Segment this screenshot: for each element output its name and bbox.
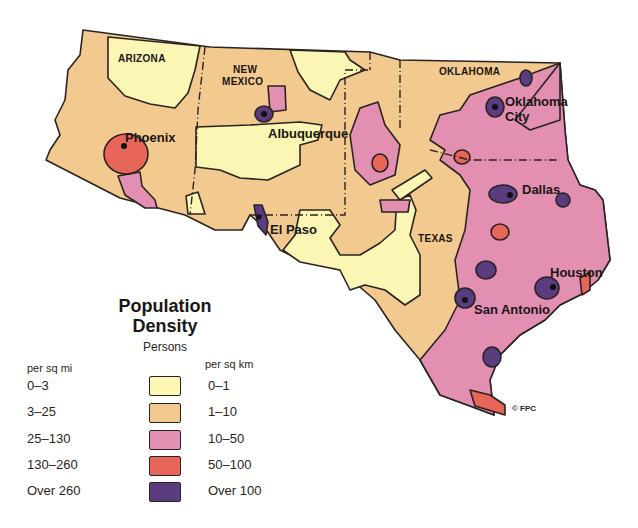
city-label-houston: Houston — [550, 265, 603, 280]
legend-km-4: Over 100 — [208, 483, 261, 498]
legend-km-0: 0–1 — [208, 378, 230, 393]
legend-title-line2: Density — [95, 316, 235, 336]
city-label-dallas: Dallas — [522, 182, 560, 197]
legend-column-header-mi: per sq mi — [27, 362, 72, 374]
legend-mi-4: Over 260 — [27, 483, 80, 498]
population-density-map — [0, 0, 638, 528]
city-label-el-paso: El Paso — [270, 222, 317, 237]
legend-km-3: 50–100 — [208, 457, 251, 472]
legend-title: Population Density — [95, 296, 235, 336]
region-texas-orange — [491, 224, 509, 240]
region-ok-ne — [520, 70, 532, 86]
state-label-new-mexico-line1: NEW — [233, 64, 257, 75]
legend-swatch-10-50 — [149, 430, 181, 450]
legend-km-2: 10–50 — [208, 431, 244, 446]
legend-swatch-1-10 — [149, 403, 181, 423]
legend-mi-1: 3–25 — [27, 404, 56, 419]
region-corpus — [483, 347, 501, 367]
legend-swatch-50-100 — [149, 456, 181, 476]
legend-mi-3: 130–260 — [27, 457, 78, 472]
state-label-new-mexico-line2: MEXICO — [222, 76, 263, 87]
copyright-label: © FPC — [512, 404, 536, 413]
region-austin — [476, 261, 496, 279]
legend-subtitle: Persons — [95, 340, 235, 354]
city-label-albuquerque: Albuquerque — [268, 126, 348, 141]
legend-swatch-0-1 — [149, 376, 181, 396]
region-nm-orange — [372, 154, 388, 172]
state-label-texas: TEXAS — [418, 233, 453, 244]
city-label-phoenix: Phoenix — [125, 130, 176, 145]
city-label-oklahoma-city-line1: Oklahoma — [505, 94, 568, 109]
region-ok-orange — [454, 150, 470, 164]
legend-mi-0: 0–3 — [27, 378, 49, 393]
city-label-san-antonio: San Antonio — [474, 302, 550, 317]
legend-mi-2: 25–130 — [27, 431, 70, 446]
region-texas-pink-small — [380, 200, 410, 212]
legend-column-header-km: per sq km — [205, 358, 253, 370]
state-label-oklahoma: OKLAHOMA — [439, 66, 500, 77]
state-label-arizona: ARIZONA — [118, 53, 166, 64]
legend-title-line1: Population — [95, 296, 235, 316]
legend-km-1: 1–10 — [208, 404, 237, 419]
legend-swatch-over-100 — [149, 482, 181, 502]
city-label-oklahoma-city-line2: City — [505, 109, 530, 124]
